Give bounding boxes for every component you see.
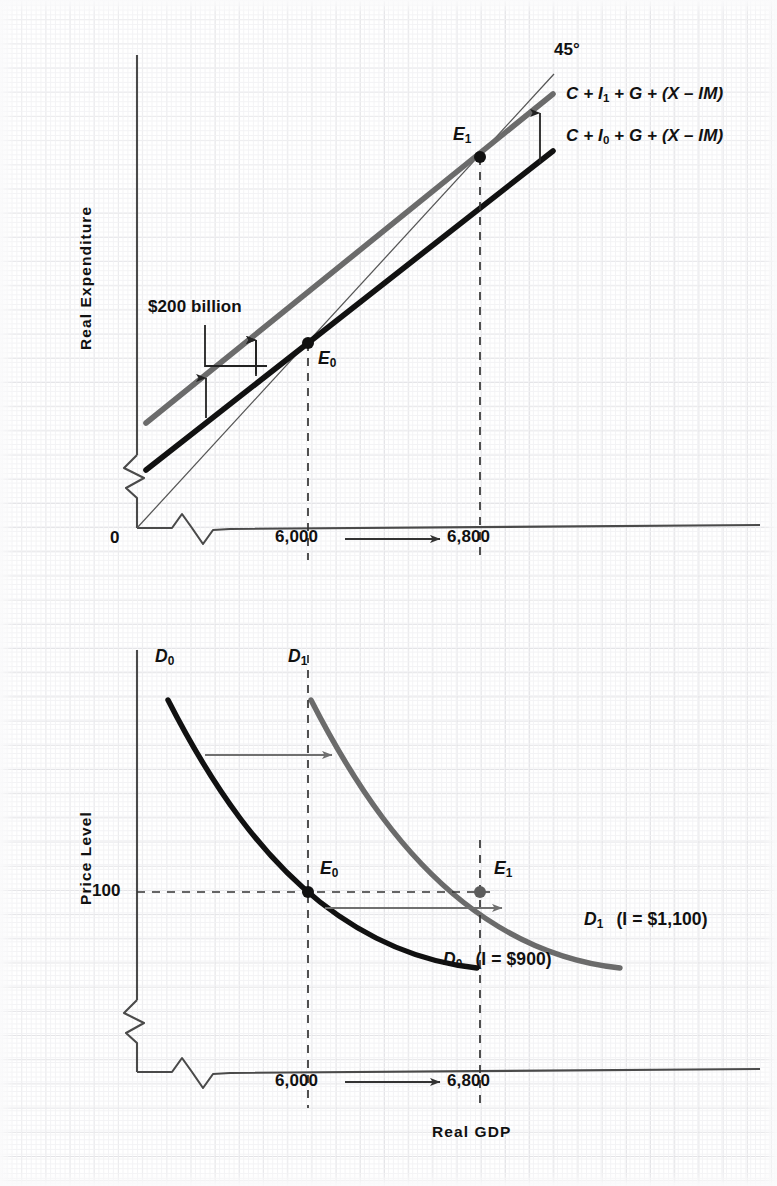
demand-curve-D0 — [168, 700, 477, 968]
bottom-label-E1: E1 — [494, 860, 512, 880]
chart-vector-layer — [0, 0, 777, 1186]
bottom-panel — [124, 650, 760, 1108]
curve-label-I0: C + I0 + G + (X – IM) — [566, 127, 723, 147]
expenditure-curve-I1 — [146, 94, 553, 423]
curve-label-I1: C + I1 + G + (X – IM) — [566, 85, 723, 105]
demand-label-D0-top: D0 — [155, 648, 174, 668]
bottom-point-E0 — [302, 886, 314, 898]
bottom-x-axis-label: Real GDP — [432, 1124, 511, 1140]
top-y-axis-label: Real Expenditure — [78, 206, 94, 350]
forty-five-degree-label: 45° — [554, 41, 580, 58]
bottom-xtick-6800: 6,800 — [447, 1072, 490, 1089]
bottom-label-E0: E0 — [320, 860, 338, 880]
economics-figure: Real Expenditure 0 6,000 6,800 45° $200 … — [0, 0, 777, 1186]
bottom-y-axis — [124, 650, 144, 1072]
top-origin-label: 0 — [110, 529, 120, 546]
top-label-E1: E1 — [453, 126, 471, 146]
demand-label-D1-top: D1 — [288, 648, 307, 668]
top-xtick-6000: 6,000 — [275, 528, 318, 545]
demand-D1-parenthetical: (I = $1,100) — [603, 909, 707, 929]
top-label-E0: E0 — [318, 350, 336, 370]
bottom-xtick-6000: 6,000 — [275, 1072, 318, 1089]
bottom-point-E1 — [474, 886, 486, 898]
top-xtick-6800: 6,800 — [447, 528, 490, 545]
top-point-E0 — [302, 337, 314, 349]
top-y-axis — [124, 55, 144, 528]
bottom-ytick-100: 100 — [92, 882, 121, 899]
demand-label-D1-end: D1(I = $1,100) — [584, 911, 708, 931]
two-hundred-billion-label: $200 billion — [148, 298, 242, 315]
demand-D0-parenthetical: (I = $900) — [462, 949, 551, 969]
top-point-E1 — [474, 151, 486, 163]
demand-label-D0-end: D0(I = $900) — [443, 951, 552, 971]
